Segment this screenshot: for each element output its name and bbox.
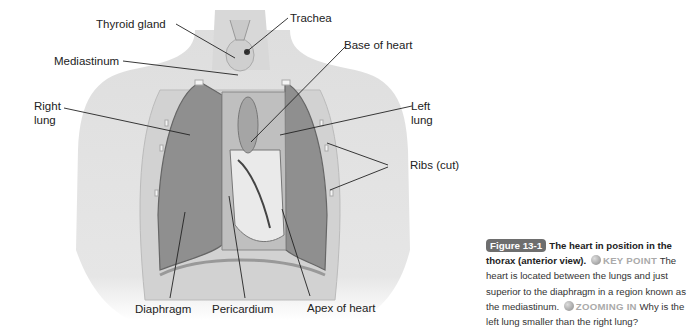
label-base-of-heart: Base of heart [344,39,412,52]
label-diaphragm: Diaphragm [135,303,191,316]
zooming-in-icon [564,301,574,311]
key-point-label: KEY POINT [603,255,657,266]
label-trachea: Trachea [290,12,332,25]
key-point-icon [591,255,601,265]
label-pericardium: Pericardium [212,303,273,316]
zooming-in-label: ZOOMING IN [576,301,637,312]
label-right-lung-line2: lung [34,114,56,127]
label-mediastinum: Mediastinum [54,55,119,68]
label-left-lung-line1: Left [411,100,430,113]
label-ribs-cut: Ribs (cut) [410,159,459,172]
label-left-lung-line2: lung [411,114,433,127]
label-apex-of-heart: Apex of heart [307,302,375,315]
label-thyroid-gland: Thyroid gland [96,18,166,31]
label-right-lung-line1: Right [34,100,61,113]
thorax-diagram: Thyroid gland Trachea Base of heart Medi… [0,0,480,329]
figure-caption: Figure 13-1The heart in position in the … [486,238,698,329]
figure-number-badge: Figure 13-1 [486,239,546,252]
